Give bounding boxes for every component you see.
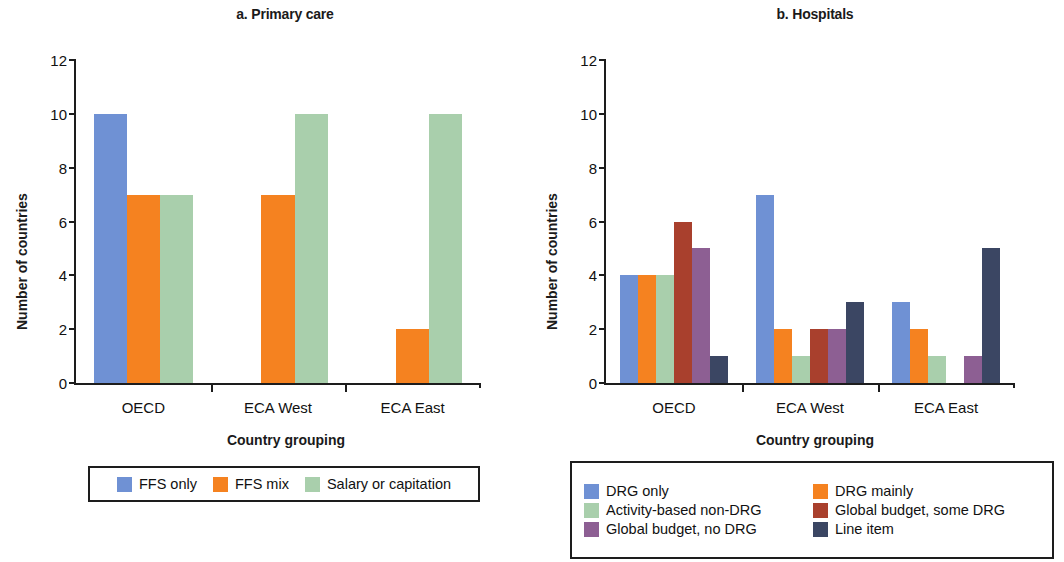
legend-item[interactable]: Global budget, some DRG	[813, 502, 1042, 518]
y-tick-mark	[69, 59, 76, 61]
y-tick-mark	[599, 328, 606, 330]
bar	[774, 329, 792, 383]
y-tick-mark	[599, 59, 606, 61]
bar	[261, 195, 294, 383]
legend-item[interactable]: FFS only	[117, 476, 197, 492]
legend-swatch-icon	[584, 484, 599, 499]
legend-label: FFS mix	[235, 476, 289, 492]
legend-label: Global budget, some DRG	[835, 502, 1005, 518]
legend-label: DRG only	[606, 483, 669, 499]
x-tick-label-eca-west: ECA West	[244, 399, 312, 416]
panel-b-legend: DRG onlyDRG mainlyActivity-based non-DRG…	[570, 461, 1054, 559]
legend-swatch-icon	[813, 522, 828, 537]
legend-item[interactable]: DRG mainly	[813, 483, 1042, 499]
legend-item[interactable]: Salary or capitation	[305, 476, 451, 492]
y-tick-mark	[69, 167, 76, 169]
y-tick-mark	[69, 274, 76, 276]
panel-a-x-axis-title: Country grouping	[0, 432, 532, 448]
bar	[620, 275, 638, 383]
legend-label: Global budget, no DRG	[606, 521, 757, 537]
panel-b-x-axis-title: Country grouping	[532, 432, 1064, 448]
legend-item[interactable]: FFS mix	[213, 476, 289, 492]
x-group-separator	[211, 383, 213, 392]
figure: a. Primary care Number of countries 0246…	[0, 0, 1064, 562]
x-group-separator	[345, 383, 347, 392]
panel-b-title: b. Hospitals	[532, 6, 1064, 22]
legend-label: Salary or capitation	[327, 476, 451, 492]
bar	[828, 329, 846, 383]
panel-a-plot-area: 024681012OECDECA WestECA East	[74, 60, 480, 385]
bar	[692, 248, 710, 383]
x-tick-label-oecd: OECD	[122, 399, 165, 416]
y-tick-mark	[69, 382, 76, 384]
legend-item[interactable]: Global budget, no DRG	[584, 521, 813, 537]
bar	[638, 275, 656, 383]
x-tick-label-eca-east: ECA East	[381, 399, 445, 416]
y-tick-mark	[599, 221, 606, 223]
x-axis-end-tick	[1013, 383, 1015, 388]
x-axis-end-tick	[479, 383, 481, 388]
y-tick-mark	[599, 382, 606, 384]
legend-swatch-icon	[213, 477, 228, 492]
bar	[792, 356, 810, 383]
bar	[910, 329, 928, 383]
legend-swatch-icon	[305, 477, 320, 492]
bar	[160, 195, 193, 383]
y-tick-mark	[69, 113, 76, 115]
panel-a-bars	[76, 60, 480, 383]
bar	[429, 114, 462, 383]
legend-swatch-icon	[117, 477, 132, 492]
panel-a-legend: FFS onlyFFS mixSalary or capitation	[88, 466, 480, 502]
bar	[656, 275, 674, 383]
panel-b-bars	[606, 60, 1014, 383]
x-tick-label-eca-west: ECA West	[776, 399, 844, 416]
y-tick-mark	[599, 167, 606, 169]
legend-swatch-icon	[584, 522, 599, 537]
panel-a-title: a. Primary care	[0, 6, 532, 22]
panel-hospitals: b. Hospitals Number of countries 0246810…	[532, 0, 1064, 562]
panel-a-y-axis-title: Number of countries	[14, 193, 30, 330]
x-tick-label-eca-east: ECA East	[914, 399, 978, 416]
legend-item[interactable]: Activity-based non-DRG	[584, 502, 813, 518]
panel-b-y-axis-title: Number of countries	[544, 193, 560, 330]
bar	[964, 356, 982, 383]
legend-item[interactable]: DRG only	[584, 483, 813, 499]
bar	[892, 302, 910, 383]
bar	[127, 195, 160, 383]
y-tick-mark	[69, 328, 76, 330]
bar	[396, 329, 429, 383]
legend-label: Activity-based non-DRG	[606, 502, 762, 518]
bar	[295, 114, 328, 383]
legend-label: Line item	[835, 521, 894, 537]
y-tick-mark	[599, 274, 606, 276]
bar	[710, 356, 728, 383]
panel-b-plot-area: 024681012OECDECA WestECA East	[604, 60, 1014, 385]
x-group-separator	[742, 383, 744, 392]
x-tick-label-oecd: OECD	[652, 399, 695, 416]
bar	[846, 302, 864, 383]
y-tick-mark	[69, 221, 76, 223]
bar	[810, 329, 828, 383]
bar	[756, 195, 774, 383]
legend-swatch-icon	[813, 503, 828, 518]
x-group-separator	[878, 383, 880, 392]
y-tick-mark	[599, 113, 606, 115]
legend-item[interactable]: Line item	[813, 521, 1042, 537]
bar	[982, 248, 1000, 383]
legend-label: FFS only	[139, 476, 197, 492]
bar	[94, 114, 127, 383]
legend-swatch-icon	[813, 484, 828, 499]
legend-swatch-icon	[584, 503, 599, 518]
bar	[928, 356, 946, 383]
bar	[674, 222, 692, 384]
legend-label: DRG mainly	[835, 483, 913, 499]
panel-primary-care: a. Primary care Number of countries 0246…	[0, 0, 532, 562]
